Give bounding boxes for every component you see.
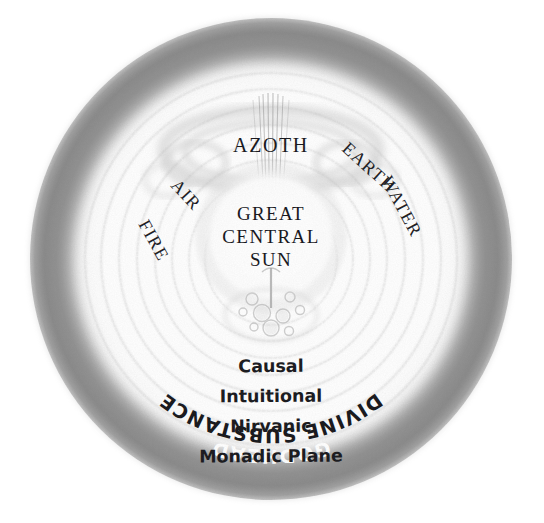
diagram-canvas: GODHEAD DIVINE SUBSTANCE FIRE AIR EARTH … bbox=[0, 0, 544, 523]
paper-texture bbox=[30, 18, 514, 502]
cosmology-illustration: GODHEAD DIVINE SUBSTANCE FIRE AIR EARTH … bbox=[0, 0, 544, 523]
